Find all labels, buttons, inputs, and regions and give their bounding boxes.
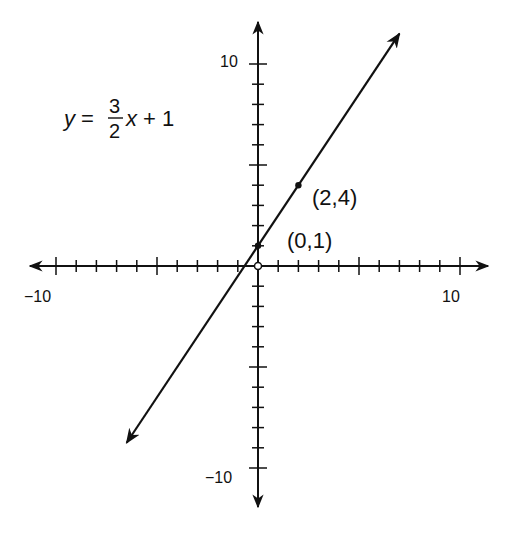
equation-denominator: 2 [109,120,120,142]
point-2-4 [295,182,301,188]
equation-numerator: 3 [109,95,120,117]
point-a-label: (2,4) [312,185,357,210]
coordinate-plane: −10 10 10 −10 (2,4) (0,1) y = 3 2 x + 1 [0,0,514,533]
x-min-label: −10 [24,288,51,305]
point-b-label: (0,1) [287,228,332,253]
origin-open-circle [255,263,262,270]
equation: y = 3 2 x + 1 [62,95,174,142]
y-max-label: 10 [220,53,238,70]
equation-lhs: y = [62,106,94,131]
function-line [127,34,400,443]
point-0-1 [255,243,261,249]
x-max-label: 10 [442,288,460,305]
equation-rhs: x + 1 [125,106,174,131]
y-min-label: −10 [205,469,232,486]
